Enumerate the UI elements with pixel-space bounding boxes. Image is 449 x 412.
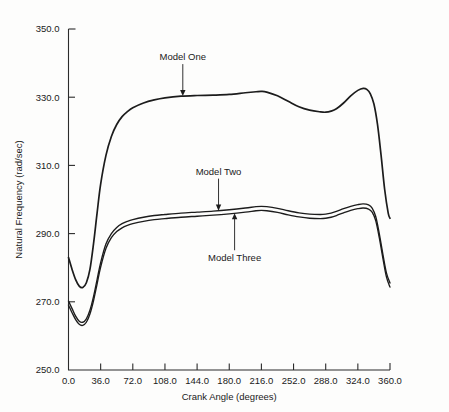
y-tick-label: 290.0 xyxy=(36,228,60,239)
x-tick-label: 108.0 xyxy=(153,375,177,386)
x-tick-label: 252.0 xyxy=(282,375,306,386)
data-curves xyxy=(69,88,391,325)
x-axis-title: Crank Angle (degrees) xyxy=(182,391,277,402)
annotation-label-model-one: Model One xyxy=(160,51,206,62)
annotation-arrowhead xyxy=(216,205,221,211)
chart-figure: 250.0270.0290.0310.0330.0350.00.036.072.… xyxy=(0,0,449,412)
y-tick-label: 310.0 xyxy=(36,160,60,171)
curve-model-three xyxy=(69,208,391,325)
natural-frequency-line-chart: 250.0270.0290.0310.0330.0350.00.036.072.… xyxy=(0,0,449,412)
annotation-label-model-two: Model Two xyxy=(196,166,242,177)
x-tick-label: 36.0 xyxy=(91,375,110,386)
axis-spine xyxy=(69,29,391,370)
x-tick-label: 72.0 xyxy=(124,375,143,386)
y-tick-label: 330.0 xyxy=(36,92,60,103)
y-tick-label: 350.0 xyxy=(36,23,60,34)
y-tick-label: 250.0 xyxy=(36,364,60,375)
x-tick-label: 324.0 xyxy=(346,375,370,386)
annotation-arrowhead xyxy=(232,213,237,219)
y-axis-title: Natural Frequency (rad/sec) xyxy=(13,140,24,258)
x-tick-label: 144.0 xyxy=(185,375,209,386)
annotation-label-model-three: Model Three xyxy=(208,252,261,263)
axis-titles: Crank Angle (degrees)Natural Frequency (… xyxy=(13,140,277,402)
x-tick-label: 0.0 xyxy=(62,375,75,386)
y-tick-label: 270.0 xyxy=(36,296,60,307)
x-tick-label: 288.0 xyxy=(314,375,338,386)
x-tick-label: 216.0 xyxy=(250,375,274,386)
x-tick-label: 360.0 xyxy=(378,375,402,386)
x-tick-label: 180.0 xyxy=(217,375,241,386)
curve-annotations: Model OneModel TwoModel Three xyxy=(160,51,262,263)
